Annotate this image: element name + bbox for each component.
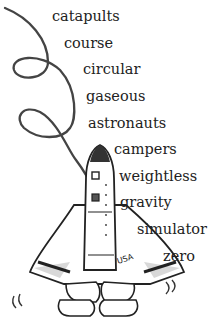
word-catapults: catapults [52,9,120,24]
word-circular: circular [83,62,140,77]
word-simulator: simulator [137,222,207,237]
word-gravity: gravity [120,195,172,210]
shuttle-body [84,145,116,270]
word-course: course [64,36,113,51]
shuttle-engines [58,282,137,316]
word-gaseous: gaseous [86,89,145,104]
word-zero: zero [163,249,195,264]
word-campers: campers [114,142,177,157]
word-astronauts: astronauts [88,116,166,131]
word-weightless: weightless [119,169,197,184]
vocabulary-illustration: USA catapults course circular gaseous as… [0,0,214,323]
